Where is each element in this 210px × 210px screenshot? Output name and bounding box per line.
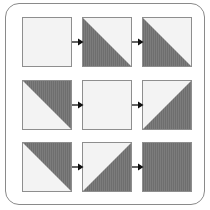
cell-3-2-dark-lower-right bbox=[82, 142, 132, 192]
cell-2-3-dark-lower-right bbox=[142, 80, 192, 130]
cell-1-1-empty bbox=[22, 17, 72, 67]
arrow-right-icon bbox=[72, 38, 84, 46]
arrow-right-icon bbox=[132, 163, 144, 171]
cell-2-2-empty bbox=[82, 80, 132, 130]
arrow-right-icon bbox=[72, 163, 84, 171]
cell-3-3-full bbox=[142, 142, 192, 192]
arrow-right-icon bbox=[132, 38, 144, 46]
arrow-right-icon bbox=[72, 101, 84, 109]
cell-1-2-dark-lower-left bbox=[82, 17, 132, 67]
arrow-right-icon bbox=[132, 101, 144, 109]
cell-2-1-dark-upper-right bbox=[22, 80, 72, 130]
cell-3-1-dark-upper-right bbox=[22, 142, 72, 192]
cell-1-3-dark-lower-left bbox=[142, 17, 192, 67]
